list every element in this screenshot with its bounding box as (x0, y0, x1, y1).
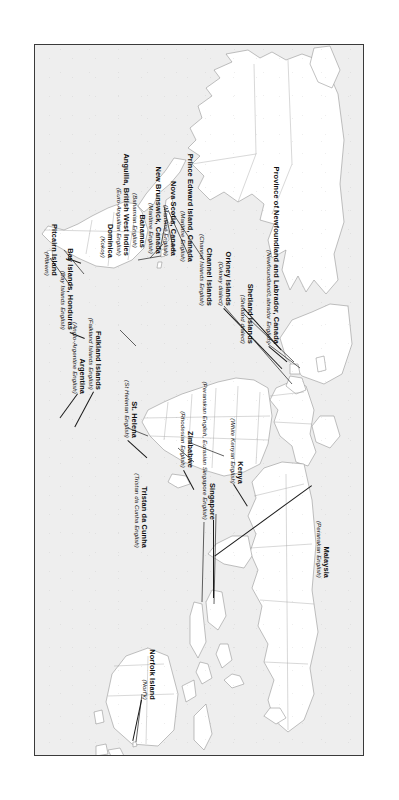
map-label-singapore: Singapore (Peranakan English, Eurasian S… (201, 334, 216, 520)
map-label-anguilla: Anguilla, British West Indies (Euro-Angu… (115, 120, 130, 256)
map-label-norfolk-island: Norfolk Island (Norf'k) (141, 612, 156, 700)
map-label-shetland-islands: Shetland Islands (Shetland dialect) (239, 194, 254, 344)
map-label-malaysia: Malaysia (Peranakan English) (315, 460, 330, 578)
map-label-zimbabwe: Zimbabwe (Rhodesian English) (179, 374, 194, 468)
map-label-pitcairn-island: Pitcairn Island (Pitkern) (43, 196, 58, 276)
leader-line-singapore (213, 520, 214, 598)
map-rotated-canvas: Province of Newfoundland and Labrador, C… (34, 44, 364, 756)
map-label-falkland-islands: Falkland Islands (Falkland Islands Engli… (87, 276, 102, 390)
map-label-dominica: Dominica (Kokoy) (99, 192, 114, 258)
map-label-st-helena: St. Helena (St Helenan English) (123, 344, 138, 438)
map-label-bahamas: Bahamas (Bahamian English) (131, 164, 146, 248)
map-label-kenya: Kenya (White Kenyan English) (229, 378, 244, 484)
map-label-orkney-islands: Orkney Islands (Orkney dialect) (217, 184, 232, 306)
map-label-prince-edward-island: Prince Edward Island, Canada (Maritime E… (179, 120, 194, 262)
world-map-svg (34, 44, 364, 756)
map-label-newfoundland-labrador: Province of Newfoundland and Labrador, C… (265, 44, 280, 344)
map-label-argentina: Argentina (Anglo-Argentine English) (71, 288, 86, 394)
map-label-channel-islands: Channel Islands (Channel Islands English… (198, 164, 213, 306)
world-map-figure: Province of Newfoundland and Labrador, C… (34, 44, 364, 756)
map-label-nova-scotia: Nova Scotia, Canada (Maritime English) (162, 140, 177, 256)
figure-page: Province of Newfoundland and Labrador, C… (0, 0, 399, 800)
map-label-new-brunswick: New Brunswick, Canada (Maritime English) (147, 126, 162, 254)
